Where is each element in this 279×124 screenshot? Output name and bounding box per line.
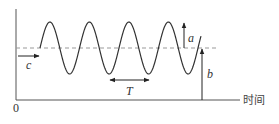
wave-diagram: c a b T 0 时间 bbox=[0, 0, 279, 124]
amplitude-label: a bbox=[188, 31, 194, 45]
phase-shift-label: c bbox=[26, 58, 32, 72]
x-axis-label: 时间 bbox=[243, 94, 265, 107]
baseline-label: b bbox=[207, 67, 213, 81]
sine-wave bbox=[40, 22, 201, 74]
origin-label: 0 bbox=[13, 101, 19, 115]
period-label: T bbox=[126, 84, 134, 98]
